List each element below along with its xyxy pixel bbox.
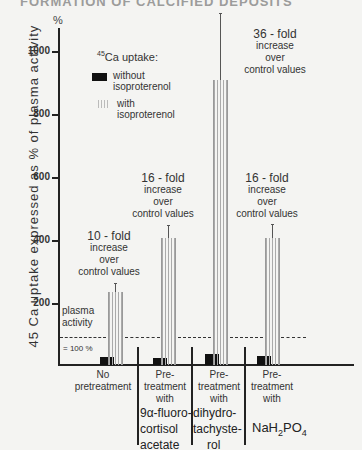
annotation-10-fold-line3: over [64, 254, 154, 266]
category-label-no-pretreatment: No pretreatment [68, 369, 138, 393]
y-axis-unit: % [53, 14, 63, 26]
annotation-16-fold-a: 16 - fold increase over control values [118, 172, 208, 220]
annotation-16-fold-a-line4: control values [118, 208, 208, 220]
agent-nah2po4-part2: PO [283, 420, 302, 435]
annotation-16-fold-b-line3: over [222, 196, 312, 208]
bar-with-no-pretreatment [108, 292, 123, 365]
category-label-fluorocortisol-line1: Pre- [139, 369, 191, 381]
category-label-no-pretreatment-line1: No [68, 369, 138, 381]
y-tick-800 [52, 114, 59, 116]
category-label-fluorocortisol-line2: treatment [139, 381, 191, 393]
annotation-16-fold-b-line1: 16 - fold [222, 172, 312, 184]
y-tick-label-400: 400 [20, 234, 50, 245]
y-tick-400 [52, 240, 59, 242]
agent-nah2po4-sub2: 4 [302, 428, 307, 438]
reference-line-segment-1 [60, 337, 106, 338]
category-label-dihydrotachysterol-line3: with [193, 393, 245, 405]
annotation-10-fold-line1: 10 - fold [64, 230, 154, 242]
annotation-16-fold-a-line1: 16 - fold [118, 172, 208, 184]
category-label-fluorocortisol-line3: with [139, 393, 191, 405]
annotation-36-fold-line1: 36 - fold [230, 28, 320, 40]
legend-label-with-line2: isoproterenol [117, 109, 175, 120]
category-label-nah2po4: Pre- treatment with [246, 369, 298, 405]
agent-label-fluorocortisol-line3: acetate [140, 437, 192, 450]
legend-title: 45Ca uptake: [97, 50, 158, 63]
y-axis-line [58, 28, 60, 366]
annotation-10-fold: 10 - fold increase over control values [64, 230, 154, 278]
reference-line-segment-5 [281, 337, 306, 338]
category-label-dihydrotachysterol-line1: Pre- [193, 369, 245, 381]
annotation-36-fold-line2: increase [230, 40, 320, 52]
annotation-36-fold-line4: control values [230, 64, 320, 76]
plasma-activity-value: = 100 % [63, 343, 93, 355]
category-label-dihydrotachysterol: Pre- treatment with [193, 369, 245, 405]
agent-label-dihydrotachysterol: dihydro- tachyste- rol [193, 405, 242, 450]
y-tick-label-600: 600 [20, 171, 50, 182]
annotation-10-fold-line2: increase [64, 242, 154, 254]
plasma-label-line1: plasma [62, 305, 94, 317]
agent-label-fluorocortisol-line2: cortisol [140, 421, 192, 437]
errbar-no-pretreatment [115, 283, 116, 292]
category-label-dihydrotachysterol-line2: treatment [193, 381, 245, 393]
agent-nah2po4-part1: NaH [252, 420, 278, 435]
y-tick-label-1000: 1000 [20, 45, 50, 56]
y-tick-label-200: 200 [20, 297, 50, 308]
bar-with-nah2po4 [265, 238, 280, 365]
page-header-fragment: FORMATION OF CALCIFIED DEPOSITS [20, 0, 293, 9]
y-axis-label-superscript: 45 [26, 331, 41, 347]
agent-label-fluorocortisol: 9α-fluoro- cortisol acetate [140, 405, 192, 450]
bar-with-fluorocortisol [161, 238, 176, 365]
errbar-fluorocortisol [168, 225, 169, 238]
errcap-nah2po4 [271, 224, 274, 225]
category-label-nah2po4-line3: with [246, 393, 298, 405]
annotation-16-fold-a-line2: increase [118, 184, 208, 196]
legend-label-without-line1: without [113, 70, 171, 81]
plasma-activity-label: plasma activity [62, 305, 94, 329]
agent-label-fluorocortisol-line1: 9α-fluoro- [140, 405, 192, 421]
agent-label-dihydrotachysterol-line1: dihydro- [193, 405, 242, 421]
annotation-16-fold-a-line3: over [118, 196, 208, 208]
bar-with-dihydrotachysterol [213, 80, 228, 365]
agent-label-dihydrotachysterol-line3: rol [193, 437, 242, 450]
errcap-fluorocortisol [167, 225, 170, 226]
annotation-10-fold-line4: control values [64, 266, 154, 278]
y-tick-label-800: 800 [20, 108, 50, 119]
category-label-no-pretreatment-line2: pretreatment [68, 381, 138, 393]
annotation-16-fold-b: 16 - fold increase over control values [222, 172, 312, 220]
annotation-16-fold-b-line2: increase [222, 184, 312, 196]
legend-label-with-line1: with [117, 98, 175, 109]
errcap-dihydrotachysterol [219, 13, 222, 14]
errcap-no-pretreatment [114, 283, 117, 284]
errbar-dihydrotachysterol [220, 13, 221, 80]
reference-line-segment-2 [125, 337, 160, 338]
legend-label-with: with isoproterenol [117, 98, 175, 120]
agent-label-nah2po4: NaH2PO4 [252, 420, 307, 441]
legend-title-superscript: 45 [97, 50, 105, 57]
annotation-16-fold-b-line4: control values [222, 208, 312, 220]
category-label-fluorocortisol: Pre- treatment with [139, 369, 191, 405]
legend-swatch-with [98, 100, 110, 108]
annotation-36-fold: 36 - fold increase over control values [230, 28, 320, 76]
plasma-label-line2: activity [62, 317, 94, 329]
legend-label-without-line2: isoproterenol [113, 81, 171, 92]
y-tick-600 [52, 177, 59, 179]
reference-line-segment-4 [230, 337, 263, 338]
annotation-36-fold-line3: over [230, 52, 320, 64]
category-label-nah2po4-line2: treatment [246, 381, 298, 393]
y-tick-1000 [52, 51, 59, 53]
category-label-nah2po4-line1: Pre- [246, 369, 298, 381]
legend-swatch-without [92, 73, 107, 81]
legend-title-text: Ca uptake: [105, 51, 158, 63]
reference-line-segment-3 [178, 337, 211, 338]
agent-label-dihydrotachysterol-line2: tachyste- [193, 421, 242, 437]
legend-label-without: without isoproterenol [113, 70, 171, 92]
errbar-nah2po4 [272, 224, 273, 238]
y-tick-200 [52, 303, 59, 305]
